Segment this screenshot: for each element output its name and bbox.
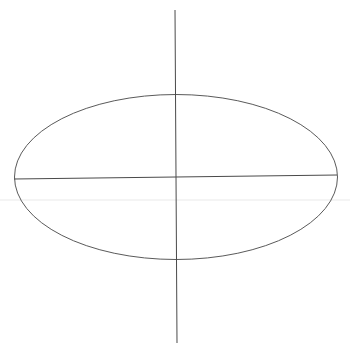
ellipse-diagram (0, 0, 350, 355)
diagram-canvas (0, 0, 350, 355)
